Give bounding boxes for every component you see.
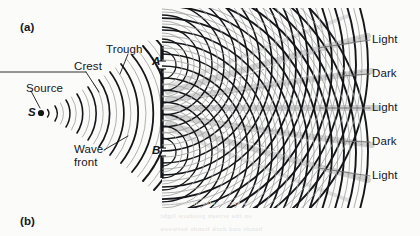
source-point-label: S bbox=[28, 106, 36, 118]
bleedthrough-line-1: the small notes of the wave bbox=[160, 199, 253, 207]
bleedthrough-line-3: bands and dark bands between bbox=[160, 225, 262, 233]
source-callout-label: Source bbox=[26, 82, 63, 94]
crest-label: Crest bbox=[74, 60, 102, 72]
fringe-label-light-2: Light bbox=[372, 101, 397, 113]
panel-label-b: (b) bbox=[20, 215, 35, 227]
bleedthrough-line-2: on the screen produce light bbox=[160, 212, 252, 220]
fringe-label-dark-1: Dark bbox=[372, 67, 397, 79]
figure-canvas: (a) (b) Source S Crest Trough Wave front… bbox=[0, 0, 420, 236]
panel-label-a: (a) bbox=[20, 21, 34, 33]
wavefront-label-line2: front bbox=[74, 156, 98, 170]
source-first-ripple bbox=[48, 110, 49, 118]
fringe-label-light-3: Light bbox=[372, 169, 397, 181]
fringe-label-dark-2: Dark bbox=[372, 135, 397, 147]
trough-label: Trough bbox=[106, 43, 143, 55]
wavefront-leader bbox=[104, 136, 128, 150]
wavefront-label-line1: Wave bbox=[74, 143, 103, 157]
slit-label-b: B bbox=[152, 144, 160, 156]
slit-label-a: A bbox=[152, 55, 160, 67]
fringe-label-light-1: Light bbox=[372, 33, 397, 45]
source-point bbox=[38, 110, 44, 116]
crest-leader bbox=[86, 72, 99, 92]
